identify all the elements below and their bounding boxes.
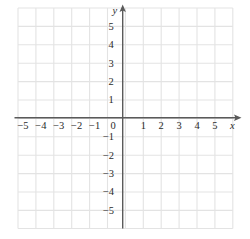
x-tick-label--1: −1 bbox=[86, 121, 104, 132]
x-tick-label-4: 4 bbox=[190, 121, 204, 132]
y-tick-label--1: −1 bbox=[99, 132, 118, 143]
x-tick-label--2: −2 bbox=[68, 121, 86, 132]
y-tick-label-1: 1 bbox=[104, 95, 118, 106]
y-tick-label--3: −3 bbox=[99, 169, 118, 180]
y-tick-label-5: 5 bbox=[104, 22, 118, 33]
x-tick-label--5: −5 bbox=[14, 121, 32, 132]
y-tick-label--2: −2 bbox=[99, 151, 118, 162]
x-tick-label-1: 1 bbox=[136, 121, 150, 132]
y-axis-label: y bbox=[113, 6, 118, 17]
y-tick-label-3: 3 bbox=[104, 59, 118, 70]
origin-label: 0 bbox=[106, 121, 120, 132]
coordinate-plane-figure: −5 −4 −3 −2 −1 0 1 2 3 4 5 5 4 3 2 1 −1 … bbox=[0, 0, 250, 239]
x-tick-label-5: 5 bbox=[208, 121, 222, 132]
x-tick-label--4: −4 bbox=[32, 121, 50, 132]
x-tick-label-3: 3 bbox=[172, 121, 186, 132]
y-tick-label--5: −5 bbox=[99, 206, 118, 217]
x-tick-label--3: −3 bbox=[50, 121, 68, 132]
y-tick-label-4: 4 bbox=[104, 40, 118, 51]
x-tick-label-2: 2 bbox=[154, 121, 168, 132]
y-tick-label-2: 2 bbox=[104, 77, 118, 88]
y-tick-label--4: −4 bbox=[99, 187, 118, 198]
x-axis-label: x bbox=[230, 121, 235, 132]
